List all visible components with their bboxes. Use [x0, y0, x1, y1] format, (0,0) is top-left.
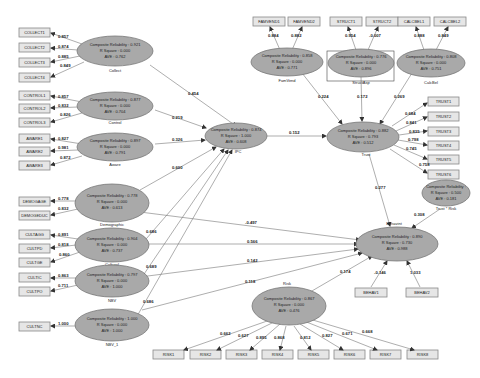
svg-text:TRUST1: TRUST1 [436, 99, 452, 104]
svg-text:R Square : 0.000: R Square : 0.000 [97, 199, 128, 204]
svg-text:-0.007: -0.007 [369, 33, 382, 38]
indicator-cultnc[interactable]: CULTNC [19, 322, 50, 331]
coef-structasp-trust: 0.172 [357, 94, 368, 99]
indicator-risk8[interactable]: RISK8 [407, 350, 438, 359]
svg-text:DEMOGAGE: DEMOGAGE [23, 199, 47, 204]
svg-text:0.827: 0.827 [58, 136, 69, 141]
latent-collect[interactable]: Composite Reliability : 0.921 R Square :… [77, 36, 153, 73]
latent-trust[interactable]: Composite Reliability : 0.882 R Square :… [327, 122, 399, 157]
indicator-behav1[interactable]: BEHAV1 [355, 288, 387, 297]
indicator-trust6[interactable]: TRUST6 [428, 170, 459, 179]
indicator-collect1[interactable]: COLLECT1 [19, 28, 50, 37]
indicator-cultagg[interactable]: CULTAGG [19, 230, 50, 239]
svg-text:AVE : 0.512: AVE : 0.512 [352, 140, 374, 145]
indicator-collect2[interactable]: COLLECT2 [19, 43, 50, 52]
latent-ipc[interactable]: Composite Reliability : 0.874 R Square :… [205, 123, 267, 154]
svg-text:CONTROL2: CONTROL2 [24, 106, 47, 111]
indicator-demogage[interactable]: DEMOGAGE [19, 197, 50, 206]
indicator-risk6[interactable]: RISK6 [334, 350, 365, 359]
latent-trust-label: Trust [362, 152, 372, 157]
svg-text:0.885: 0.885 [58, 54, 69, 59]
indicator-risk5[interactable]: RISK5 [298, 350, 329, 359]
svg-text:AVE : 0.704: AVE : 0.704 [104, 109, 126, 114]
nbv1-block: CULTNC 1.000 Composite Reliability : 1.0… [19, 309, 149, 347]
indicator-control1[interactable]: CONTROL1 [19, 91, 50, 100]
indicator-trust5[interactable]: TRUST5 [428, 155, 459, 164]
svg-text:R Square : 0.730: R Square : 0.730 [382, 240, 413, 245]
svg-text:0.668: 0.668 [362, 329, 373, 334]
svg-text:RISK6: RISK6 [344, 352, 356, 357]
svg-text:0.684: 0.684 [405, 111, 416, 116]
latent-demographic[interactable]: Composite Reliability : 0.778 R Square :… [75, 184, 149, 227]
indicator-trust4[interactable]: TRUST4 [428, 141, 459, 150]
indicator-struct1[interactable]: STRUCT1 [330, 17, 362, 26]
indicator-calcbel2[interactable]: CALCBEL2 [434, 17, 466, 26]
svg-text:TRUST5: TRUST5 [436, 157, 452, 162]
indicator-cultge[interactable]: CULTGE [19, 258, 50, 267]
latent-nbv1[interactable]: Composite Reliability : 1.000 R Square :… [75, 309, 149, 347]
latent-control[interactable]: Composite Reliability : 0.877 R Square :… [77, 92, 153, 125]
indicator-risk1[interactable]: RISK1 [153, 350, 184, 359]
indicator-aware3[interactable]: AWARE3 [19, 161, 50, 170]
indicator-trust1[interactable]: TRUST1 [428, 97, 459, 106]
latent-trust-risk[interactable]: Composite Reliability : R Square : 0.500… [422, 180, 470, 211]
svg-text:STRUCT2: STRUCT2 [373, 19, 392, 24]
indicator-struct2[interactable]: STRUCT2 [366, 17, 398, 26]
indicator-famvend2[interactable]: FAMVEND2 [288, 17, 320, 26]
indicator-collect4[interactable]: COLLECT4 [19, 73, 50, 82]
latent-cultural[interactable]: Composite Reliability : 0.904 R Square :… [75, 228, 149, 267]
svg-text:DEMOGEDUC: DEMOGEDUC [21, 213, 48, 218]
svg-text:0.841: 0.841 [406, 120, 417, 125]
indicator-cultpd[interactable]: CULTPD [19, 244, 50, 253]
svg-text:0.868: 0.868 [274, 335, 285, 340]
indicator-risk4[interactable]: RISK4 [262, 350, 293, 359]
latent-nbv[interactable]: Composite Reliability : 0.797 R Square :… [75, 265, 149, 303]
indicator-aware1[interactable]: AWARE1 [19, 134, 50, 143]
svg-text:COLLECT2: COLLECT2 [24, 45, 45, 50]
svg-text:RISK1: RISK1 [163, 352, 175, 357]
svg-text:0.798: 0.798 [408, 137, 419, 142]
indicator-calcbel1[interactable]: CALCBEL1 [398, 17, 430, 26]
svg-text:R Square : 0.000: R Square : 0.000 [274, 302, 305, 307]
indicator-aware2[interactable]: AWARE2 [19, 147, 50, 156]
indicator-collect3[interactable]: COLLECT3 [19, 58, 50, 67]
latent-demographic-label: Demographic [100, 222, 124, 227]
latent-risk[interactable]: Composite Reliability : 0.867 R Square :… [252, 281, 326, 325]
svg-text:AWARE2: AWARE2 [26, 149, 43, 154]
svg-text:TRUST4: TRUST4 [436, 143, 452, 148]
indicator-famvend1[interactable]: FAMVEND1 [253, 17, 285, 26]
svg-text:CALCBEL1: CALCBEL1 [404, 19, 425, 24]
latent-aware[interactable]: Composite Reliability : 0.897 R Square :… [77, 133, 153, 167]
svg-text:AWARE1: AWARE1 [26, 136, 43, 141]
indicator-cultpo[interactable]: CULTPO [19, 287, 50, 296]
coef-demographic-ipc: 0.600 [172, 165, 183, 170]
indicator-trust3[interactable]: TRUST3 [428, 127, 459, 136]
indicator-risk3[interactable]: RISK3 [226, 350, 257, 359]
indicator-cultic[interactable]: CULTIC [19, 273, 50, 282]
latent-calcbel[interactable]: Composite Reliability : 0.808 R Square :… [397, 49, 465, 85]
svg-text:Composite Reliability : 0.867: Composite Reliability : 0.867 [264, 296, 315, 301]
indicator-trust2[interactable]: TRUST2 [428, 112, 459, 121]
indicator-demogeduc[interactable]: DEMOGEDUC [19, 211, 50, 220]
indicator-control3[interactable]: CONTROL3 [19, 118, 50, 127]
indicator-risk7[interactable]: RISK7 [370, 350, 401, 359]
coef-nbv1-ipc: 0.686 [143, 299, 154, 304]
svg-text:Composite Reliability : 1.000: Composite Reliability : 1.000 [87, 316, 138, 321]
coef-ipc-trust: 0.152 [289, 130, 300, 135]
svg-text:Composite Reliability : 0.776: Composite Reliability : 0.776 [336, 54, 387, 59]
latent-structasp[interactable]: Composite Reliability : 0.776 R Square :… [328, 49, 394, 85]
indicator-behav2[interactable]: BEHAV2 [406, 288, 438, 297]
latent-nbv-label: NBV [108, 298, 117, 303]
svg-text:TRUST2: TRUST2 [436, 114, 452, 119]
latent-behavint[interactable]: Composite Reliability : 0.890 R Square :… [356, 221, 438, 261]
structasp-block: STRUCT1 STRUCT2 0.954 -0.007 Composite R… [327, 17, 398, 85]
latent-trust-risk-label: Trust * Risk [436, 206, 457, 211]
svg-text:AVE : 0.751: AVE : 0.751 [420, 66, 442, 71]
coef-cultural-ipc: 0.686 [146, 229, 157, 234]
indicator-control2[interactable]: CONTROL2 [19, 104, 50, 113]
svg-text:0.981: 0.981 [58, 145, 69, 150]
svg-text:AVE : 0.613: AVE : 0.613 [101, 205, 123, 210]
indicator-risk2[interactable]: RISK2 [190, 350, 221, 359]
latent-famvend[interactable]: Composite Reliability : 0.858 R Square :… [251, 48, 323, 83]
path-demographic-behavint [140, 212, 360, 240]
